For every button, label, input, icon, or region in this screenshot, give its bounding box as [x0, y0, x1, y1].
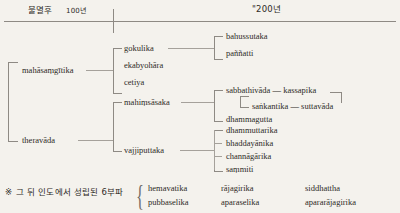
footnote-brace: {: [136, 180, 144, 210]
header-rule: [4, 21, 396, 22]
sankantika-bracket: [240, 96, 249, 108]
header-left-label: 불멸후: [28, 6, 53, 15]
mahimsasaka-children-bracket: [214, 90, 223, 122]
node-mahimsasaka: mahiṃsāsaka: [124, 98, 170, 107]
connector-theravada: [78, 140, 113, 141]
connector-vajjiputtaka: [180, 150, 214, 151]
sect-apararajagirika: apararājagirika: [305, 198, 356, 207]
node-cetiya: cetiya: [124, 78, 144, 87]
mahasamgitika-children-bracket: [113, 48, 122, 94]
node-sankantika-label: saṅkantika: [252, 101, 288, 111]
connector-gokulika: [168, 48, 214, 49]
header-divider-tick: [113, 9, 114, 33]
node-dhammuttarika: dhammuttarika: [226, 126, 277, 135]
vajjiputtaka-spine: [214, 130, 215, 170]
sect-pubbaselika: pubbaselika: [148, 198, 189, 207]
node-channagarika: channāgārika: [226, 152, 271, 161]
sect-hemavatika: hemavatika: [148, 184, 187, 193]
sect-siddhattha: siddhattha: [305, 184, 340, 193]
node-dhammagutta: dhammagutta: [226, 115, 272, 124]
node-sabbathivada-dash: —: [273, 85, 282, 95]
vajjiputtaka-children-bracket: [214, 130, 223, 172]
sect-aparaselika: aparaselika: [221, 198, 259, 207]
footnote-marker: ※: [5, 188, 12, 197]
node-sankantika: saṅkantika — suttavāda: [252, 102, 333, 111]
vajjiputtaka-tick-3: [214, 156, 222, 157]
node-gokulika: gokulika: [124, 44, 154, 53]
node-sabbathivada-label: sabbathivāda: [226, 85, 270, 95]
node-theravada: theravāda: [22, 136, 55, 145]
header-right-label: "200년: [252, 5, 281, 14]
node-mahasamgitika: mahāsaṃgītika: [22, 66, 73, 75]
connector-mahimsasaka: [181, 102, 214, 103]
footnote-text: 그 뒤 인도에서 성립된 6부파: [16, 188, 123, 197]
diagram-root: 불멸후 100년 "200년 mahāsaṃgītika theravāda g…: [0, 0, 400, 213]
vajjiputtaka-tick-2: [214, 143, 222, 144]
node-vajjiputtaka: vajjiputtaka: [124, 146, 164, 155]
header-left-value: 100년: [66, 8, 86, 15]
root-bracket: [8, 62, 18, 142]
theravada-children-bracket: [113, 102, 122, 152]
gokulika-children-bracket: [214, 36, 223, 60]
node-suttavada: suttavāda: [301, 101, 333, 111]
node-kassapika: kassapika: [283, 85, 316, 95]
sect-rajagirika: rājagirika: [221, 184, 254, 193]
connector-mahasamgitika: [86, 70, 113, 71]
node-bahussutaka: bahussutaka: [226, 32, 268, 41]
node-pannatti: paññatti: [226, 49, 253, 58]
node-ekabyohara: ekabyohāra: [124, 61, 163, 70]
node-sabbathivada: sabbathivāda — kassapika: [226, 86, 316, 95]
node-sankantika-dash: —: [290, 101, 299, 111]
node-sammiti: saṃmiti: [226, 165, 253, 174]
node-bhaddayanika: bhaddayānika: [226, 139, 273, 148]
